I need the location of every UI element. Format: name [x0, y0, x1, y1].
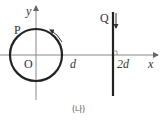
origin-label: O	[24, 57, 33, 71]
diagram-canvas: y P O d 2d x Q (나)	[0, 0, 162, 123]
tick-label-2d: 2d	[117, 57, 130, 71]
loop-label: P	[14, 23, 21, 37]
tick-label-d: d	[70, 57, 77, 71]
rotation-arrow-icon	[50, 30, 62, 42]
x-axis-label: x	[147, 57, 154, 71]
y-axis-label: y	[25, 4, 32, 18]
caption: (나)	[72, 105, 85, 114]
wire-label: Q	[100, 11, 109, 25]
